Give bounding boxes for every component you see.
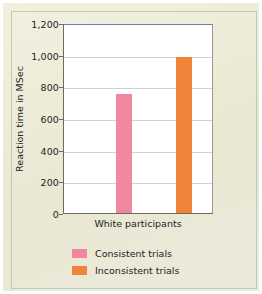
legend-label: Consistent trials	[95, 248, 172, 259]
plot-area	[63, 24, 213, 214]
chart-figure: Reaction time in MSec 1,2001,00080060040…	[0, 0, 262, 294]
bar	[176, 57, 192, 213]
y-axis-tick-mark	[59, 214, 63, 215]
bar	[116, 94, 132, 213]
legend-item: Consistent trials	[72, 246, 179, 261]
legend-label: Inconsistent trials	[95, 265, 179, 276]
y-axis-ticks	[0, 24, 63, 214]
x-axis-category-label: White participants	[63, 218, 213, 229]
bar-group	[64, 25, 212, 213]
legend-swatch	[72, 249, 87, 258]
legend-swatch	[72, 266, 87, 275]
chart-legend: Consistent trialsInconsistent trials	[72, 246, 179, 280]
legend-item: Inconsistent trials	[72, 263, 179, 278]
